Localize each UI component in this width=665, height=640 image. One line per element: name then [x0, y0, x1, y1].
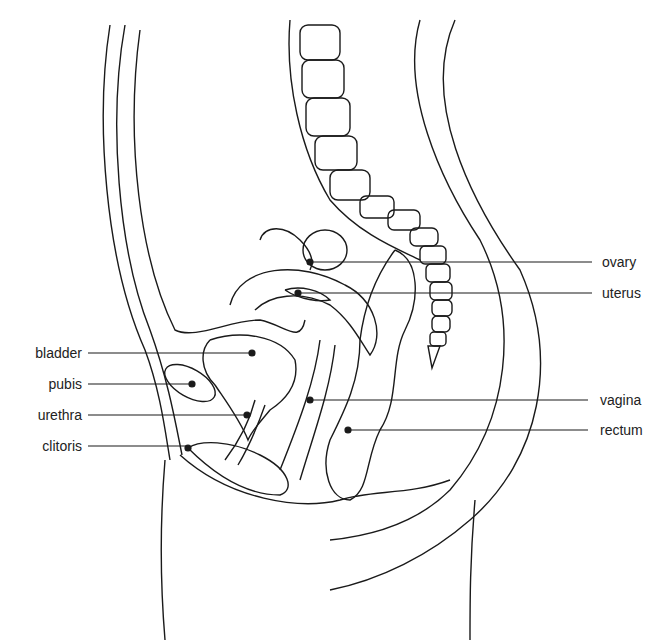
label-rectum: rectum [600, 422, 643, 438]
uterus-outer [230, 270, 377, 355]
label-bladder: bladder [0, 345, 82, 361]
abdominal-wall-inner [117, 25, 182, 455]
perineum [180, 455, 450, 504]
label-ovary: ovary [602, 254, 636, 270]
sacrum-front [289, 20, 420, 260]
label-clitoris: clitoris [0, 438, 82, 454]
anatomy-diagram [0, 0, 665, 640]
label-pubis: pubis [0, 376, 82, 392]
peritoneum [134, 30, 305, 333]
label-vagina: vagina [600, 392, 641, 408]
spine [300, 25, 452, 368]
clitoris-shape [188, 443, 288, 495]
back-outline [330, 20, 540, 590]
label-urethra: urethra [0, 407, 82, 423]
abdominal-wall-outer [103, 25, 170, 460]
rectum-shape [326, 250, 415, 500]
fallopian-tube [260, 229, 312, 270]
vagina-shape [280, 340, 320, 470]
thigh-front [161, 460, 165, 640]
label-uterus: uterus [602, 285, 641, 301]
back-inner [330, 20, 504, 540]
uterus-cavity [285, 288, 330, 301]
thigh-back [470, 500, 475, 640]
